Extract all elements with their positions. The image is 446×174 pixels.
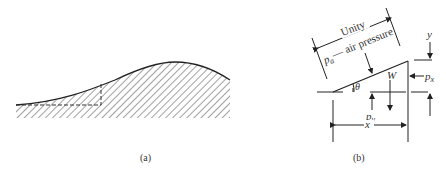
theta-label: θ <box>355 81 360 92</box>
y-dimension-label: y <box>426 28 432 40</box>
caption-a: (a) <box>140 152 151 164</box>
px-label: px <box>424 70 435 84</box>
x-dimension-label: x <box>364 118 370 130</box>
inclined-surface <box>333 61 408 92</box>
weight-label: W <box>387 69 397 81</box>
caption-b: (b) <box>353 152 365 164</box>
wave-crest-diagram <box>16 55 230 118</box>
